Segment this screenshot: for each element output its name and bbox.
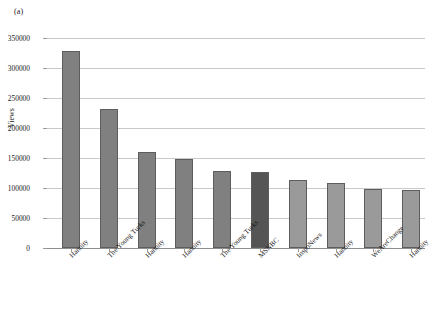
gridline xyxy=(47,68,425,69)
y-tick-label: 150000 xyxy=(0,154,30,163)
y-tick-label: 50000 xyxy=(0,214,30,223)
y-tick-label: 200000 xyxy=(0,124,30,133)
y-tick-label: 0 xyxy=(0,244,30,253)
y-tick-mark xyxy=(43,128,47,129)
bar xyxy=(289,180,307,248)
bar xyxy=(402,190,420,248)
bar xyxy=(327,183,345,248)
gridline xyxy=(47,38,425,39)
bar xyxy=(138,152,156,248)
bar xyxy=(364,189,382,248)
y-tick-label: 100000 xyxy=(0,184,30,193)
y-tick-mark xyxy=(43,188,47,189)
y-tick-label: 250000 xyxy=(0,94,30,103)
y-tick-label: 350000 xyxy=(0,34,30,43)
bar xyxy=(100,109,118,248)
gridline xyxy=(47,98,425,99)
y-tick-mark xyxy=(43,38,47,39)
panel-label: (a) xyxy=(14,7,23,16)
y-tick-label: 300000 xyxy=(0,64,30,73)
bar xyxy=(175,159,193,248)
bar xyxy=(213,171,231,248)
figure-panel: (a) Views 050000100000150000200000250000… xyxy=(0,0,438,322)
bar xyxy=(251,172,269,248)
bar xyxy=(62,51,80,248)
y-tick-mark xyxy=(43,158,47,159)
y-tick-mark xyxy=(43,218,47,219)
y-tick-mark xyxy=(43,68,47,69)
plot-area: 0500001000001500002000002500003000003500… xyxy=(47,38,425,248)
y-tick-mark xyxy=(43,98,47,99)
